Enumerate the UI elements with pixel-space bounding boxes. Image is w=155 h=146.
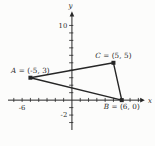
vertex-C: [111, 61, 115, 65]
vertex-A: [28, 76, 32, 80]
x-axis-label: x: [148, 97, 152, 105]
vertex-label-C: C = (5, 5): [95, 51, 132, 60]
x-axis-arrowhead-icon: [140, 98, 145, 103]
y-axis-label: y: [67, 2, 73, 10]
vertex-label-A: A = (-5, 3): [10, 66, 50, 75]
coordinate-plane: -610-2xyA = (-5, 3)C = (5, 5)B = (6, 0): [0, 0, 155, 146]
x-tick-label: -6: [19, 104, 26, 112]
vertex-label-B: B = (6, 0): [103, 102, 140, 111]
figure: -610-2xyA = (-5, 3)C = (5, 5)B = (6, 0): [0, 0, 155, 146]
y-tick-label: 10: [59, 22, 68, 30]
y-tick-label: -2: [61, 111, 68, 119]
y-axis-arrowhead-icon: [70, 11, 75, 16]
